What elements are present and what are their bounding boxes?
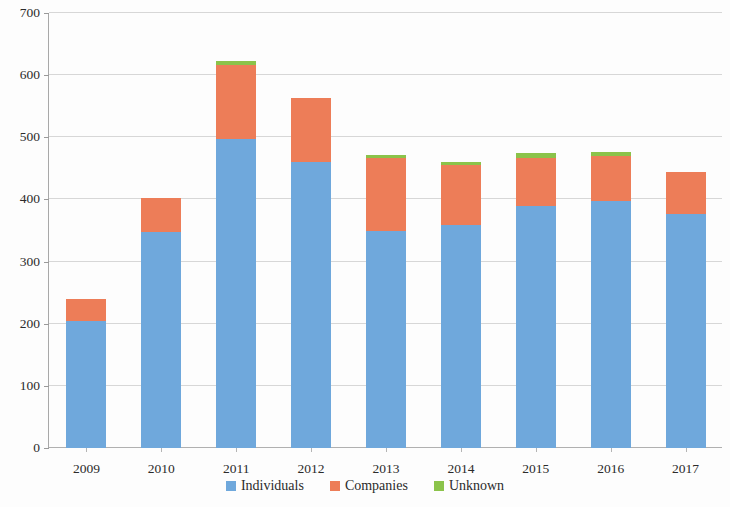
bar-segment-companies-2014[interactable] [441, 165, 481, 225]
legend-item-individuals[interactable]: Individuals [226, 478, 304, 494]
bar-group-2017[interactable]: 2017 [666, 13, 706, 448]
x-axis-tick-label-2014: 2014 [447, 461, 474, 477]
bar-stack [591, 152, 631, 448]
x-tick-mark [161, 448, 162, 452]
x-tick-mark [611, 448, 612, 452]
bar-stack [666, 172, 706, 448]
x-axis-tick-label-2010: 2010 [148, 461, 175, 477]
x-axis-tick-label-2012: 2012 [298, 461, 325, 477]
bar-segment-companies-2017[interactable] [666, 172, 706, 214]
y-axis-tick-label: 0 [33, 440, 40, 456]
x-tick-mark [311, 448, 312, 452]
legend-item-unknown[interactable]: Unknown [434, 478, 504, 494]
x-axis-tick-label-2011: 2011 [223, 461, 250, 477]
y-axis-tick-label: 200 [20, 316, 40, 332]
y-axis-tick-label: 400 [20, 191, 40, 207]
x-tick-mark [461, 448, 462, 452]
bar-group-2016[interactable]: 2016 [591, 13, 631, 448]
bar-group-2014[interactable]: 2014 [441, 13, 481, 448]
y-axis-tick-label: 500 [20, 129, 40, 145]
bar-group-2015[interactable]: 2015 [516, 13, 556, 448]
x-axis-tick-label-2017: 2017 [672, 461, 699, 477]
x-tick-mark [86, 448, 87, 452]
bar-stack [366, 155, 406, 448]
bar-segment-individuals-2011[interactable] [216, 139, 256, 448]
bar-stack [66, 299, 106, 448]
x-axis-tick-label-2009: 2009 [73, 461, 100, 477]
bar-stack [441, 162, 481, 448]
legend-label: Companies [345, 478, 408, 494]
legend-swatch-icon [226, 481, 236, 491]
x-tick-mark [686, 448, 687, 452]
bar-segment-individuals-2012[interactable] [291, 162, 331, 448]
legend-label: Individuals [241, 478, 304, 494]
bar-segment-individuals-2010[interactable] [141, 232, 181, 448]
chart-legend: IndividualsCompaniesUnknown [0, 478, 730, 494]
legend-swatch-icon [330, 481, 340, 491]
bar-segment-individuals-2015[interactable] [516, 206, 556, 448]
bar-segment-companies-2013[interactable] [366, 158, 406, 231]
x-tick-mark [536, 448, 537, 452]
bar-stack [291, 98, 331, 448]
y-axis-tick-label: 600 [20, 67, 40, 83]
y-tick-mark [44, 448, 49, 449]
bar-segment-companies-2009[interactable] [66, 299, 106, 321]
bar-segment-companies-2012[interactable] [291, 98, 331, 162]
bar-segment-companies-2011[interactable] [216, 65, 256, 138]
bar-group-2010[interactable]: 2010 [141, 13, 181, 448]
bar-segment-individuals-2017[interactable] [666, 214, 706, 448]
y-axis-tick-label: 700 [20, 5, 40, 21]
legend-swatch-icon [434, 481, 444, 491]
bar-segment-individuals-2013[interactable] [366, 231, 406, 449]
bar-group-2012[interactable]: 2012 [291, 13, 331, 448]
bar-segment-companies-2010[interactable] [141, 198, 181, 232]
bar-segment-companies-2015[interactable] [516, 158, 556, 206]
y-axis-tick-label: 300 [20, 254, 40, 270]
bar-segment-individuals-2014[interactable] [441, 225, 481, 448]
stacked-bar-chart: 0100200300400500600700 20092010201120122… [0, 0, 730, 507]
bar-stack [141, 198, 181, 448]
y-axis-tick-label: 100 [20, 378, 40, 394]
bar-group-2011[interactable]: 2011 [216, 13, 256, 448]
bar-stack [216, 61, 256, 448]
plot-area: 0100200300400500600700 20092010201120122… [48, 13, 722, 448]
bar-stack [516, 153, 556, 448]
bar-segment-individuals-2016[interactable] [591, 201, 631, 448]
x-axis-tick-label-2016: 2016 [597, 461, 624, 477]
x-axis-tick-label-2013: 2013 [373, 461, 400, 477]
x-tick-mark [236, 448, 237, 452]
x-axis-tick-label-2015: 2015 [522, 461, 549, 477]
legend-label: Unknown [449, 478, 504, 494]
legend-item-companies[interactable]: Companies [330, 478, 408, 494]
bar-group-2009[interactable]: 2009 [66, 13, 106, 448]
bar-segment-individuals-2009[interactable] [66, 321, 106, 448]
bar-segment-companies-2016[interactable] [591, 156, 631, 201]
bars-layer: 200920102011201220132014201520162017 [49, 13, 722, 448]
x-tick-mark [386, 448, 387, 452]
bar-group-2013[interactable]: 2013 [366, 13, 406, 448]
